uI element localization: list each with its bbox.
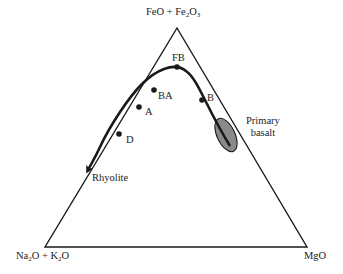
ternary-diagram <box>0 0 343 274</box>
point-label-ba: BA <box>158 90 173 102</box>
primary-basalt-label: Primary basalt <box>246 115 280 139</box>
vertex-label-bottom-left: Na2O + K2O <box>16 250 69 262</box>
point-label-a: A <box>145 106 153 118</box>
rhyolite-label: Rhyolite <box>92 172 128 184</box>
point-b <box>199 97 205 103</box>
point-ba <box>151 87 157 93</box>
point-fb <box>174 64 180 70</box>
vertex-label-top: FeO + Fe2O3 <box>146 6 200 18</box>
point-d <box>116 131 122 137</box>
point-a <box>136 104 142 110</box>
point-label-fb: FB <box>172 52 185 64</box>
vertex-label-bottom-right: MgO <box>304 250 326 262</box>
point-label-d: D <box>126 134 134 146</box>
point-label-b: B <box>207 92 214 104</box>
